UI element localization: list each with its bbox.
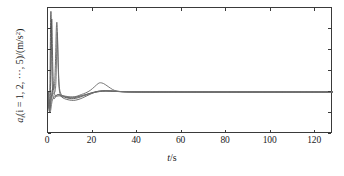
y-axis-title-close: ) — [14, 29, 25, 32]
x-axis-tick — [181, 130, 182, 133]
x-axis-tick — [136, 8, 137, 11]
x-axis-tick — [270, 130, 271, 133]
x-axis-tick — [225, 130, 226, 133]
x-tick-label: 120 — [307, 135, 321, 145]
y-axis-tick — [328, 7, 331, 8]
y-axis-tick — [328, 28, 331, 29]
x-tick-label: 0 — [45, 135, 50, 145]
plot-area — [47, 7, 332, 133]
plot-curves — [48, 8, 333, 134]
x-axis-tick — [47, 8, 48, 11]
y-axis-tick — [48, 112, 51, 113]
x-axis-tick — [181, 8, 182, 11]
chart-figure: −100−50050100150200 020406080100120 t/s … — [0, 0, 344, 176]
y-axis-tick — [48, 49, 51, 50]
y-axis-title-sub: i — [19, 116, 26, 118]
y-axis-tick — [48, 7, 51, 8]
x-axis-title: t/s — [0, 152, 344, 163]
series-line — [48, 19, 333, 112]
x-tick-label: 80 — [220, 135, 229, 145]
y-axis-tick — [328, 91, 331, 92]
y-axis-tick — [48, 70, 51, 71]
x-tick-label: 20 — [87, 135, 96, 145]
x-axis-tick — [314, 8, 315, 11]
series-line — [48, 32, 333, 106]
series-line — [48, 22, 333, 111]
y-axis-tick — [328, 70, 331, 71]
y-axis-title-sup: 2 — [14, 32, 21, 35]
y-axis-title-var: a — [14, 118, 25, 123]
x-tick-label: 40 — [131, 135, 140, 145]
y-axis-tick — [48, 91, 51, 92]
x-axis-tick — [314, 130, 315, 133]
y-axis-title: ai(i = 1, 2, ···, 5)/(m/s2) — [14, 0, 25, 156]
x-axis-tick — [225, 8, 226, 11]
y-axis-tick — [328, 133, 331, 134]
y-axis-tick — [48, 28, 51, 29]
y-axis-tick — [328, 112, 331, 113]
x-tick-label: 60 — [176, 135, 185, 145]
y-axis-tick — [328, 49, 331, 50]
x-tick-label: 100 — [263, 135, 277, 145]
x-axis-tick — [92, 130, 93, 133]
x-axis-tick — [92, 8, 93, 11]
x-axis-tick — [270, 8, 271, 11]
y-axis-tick — [48, 133, 51, 134]
x-axis-title-unit: /s — [170, 152, 177, 163]
x-axis-tick — [136, 130, 137, 133]
x-axis-tick — [47, 130, 48, 133]
y-axis-title-paren: (i = 1, 2, ···, 5)/(m/s — [14, 35, 25, 116]
